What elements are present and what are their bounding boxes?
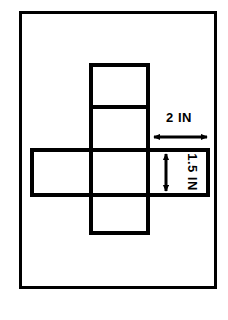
net-cell-center [91, 150, 148, 195]
net-cell-left [32, 150, 91, 195]
net-cell-upper-middle [91, 107, 148, 150]
diagram-canvas: 2 IN 1.5 IN [0, 0, 228, 320]
cube-net-diagram: 2 IN 1.5 IN [0, 0, 228, 320]
net-cell-top [91, 65, 148, 107]
net-cell-bottom [91, 195, 148, 233]
width-dimension-label: 2 IN [166, 110, 192, 125]
height-dimension-label: 1.5 IN [185, 153, 200, 191]
